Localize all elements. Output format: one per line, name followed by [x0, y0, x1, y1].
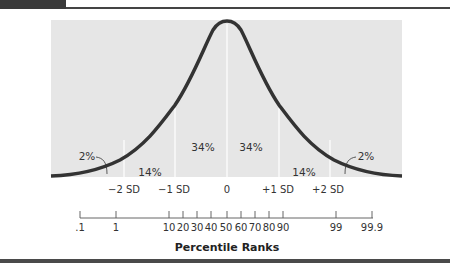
region-label-right-14: 14% — [292, 166, 315, 178]
tick-label: 30 — [191, 222, 204, 233]
sd-label-mean: 0 — [224, 184, 230, 195]
region-label-left-34: 34% — [191, 141, 214, 153]
sd-label-plus2: +2 SD — [312, 184, 344, 195]
tick-label: 20 — [177, 222, 190, 233]
percentile-axis — [80, 211, 373, 218]
tick-label: 99.9 — [361, 222, 383, 233]
tick-label: 80 — [263, 222, 276, 233]
tick-label: 60 — [235, 222, 248, 233]
tick-label: 90 — [277, 222, 290, 233]
region-label-left-14: 14% — [138, 166, 161, 178]
tick-label: 99 — [330, 222, 343, 233]
axis-title: Percentile Ranks — [175, 241, 279, 254]
sd-label-minus2: −2 SD — [108, 184, 140, 195]
tick-label: 70 — [249, 222, 262, 233]
region-label-right-34: 34% — [239, 141, 262, 153]
sd-label-plus1: +1 SD — [262, 184, 294, 195]
footer-rule — [0, 259, 450, 263]
tick-label: .1 — [75, 222, 85, 233]
tick-label: 1 — [113, 222, 119, 233]
region-label-left-tail: 2% — [79, 150, 96, 162]
sd-label-minus1: −1 SD — [158, 184, 190, 195]
tick-label: 10 — [163, 222, 176, 233]
tick-label: 50 — [220, 222, 233, 233]
tick-label: 40 — [205, 222, 218, 233]
region-label-right-tail: 2% — [358, 150, 375, 162]
